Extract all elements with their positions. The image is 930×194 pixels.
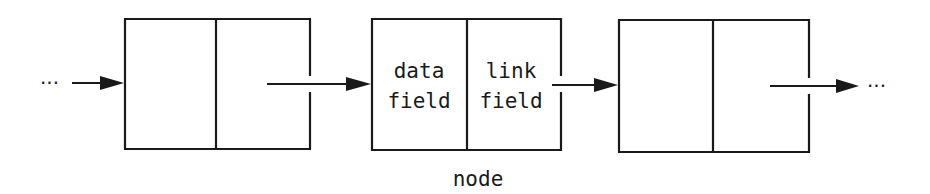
link-arrow-1: [267, 77, 371, 91]
incoming-arrow: [72, 76, 124, 90]
diagram-svg: ··· data field link field node: [0, 0, 930, 194]
linked-list-diagram: ··· data field link field node: [0, 0, 930, 194]
node-2: data field link field node: [372, 19, 561, 191]
link-field-label-line2: field: [479, 89, 542, 113]
leading-ellipsis: ···: [40, 71, 59, 95]
link-field-label-line1: link: [486, 59, 537, 83]
node-caption: node: [453, 167, 504, 191]
trailing-ellipsis: ···: [867, 74, 886, 98]
data-field-label-line1: data: [394, 59, 445, 83]
data-field-label-line2: field: [387, 89, 450, 113]
link-arrow-2: [552, 78, 618, 92]
outgoing-arrow: [770, 79, 859, 93]
